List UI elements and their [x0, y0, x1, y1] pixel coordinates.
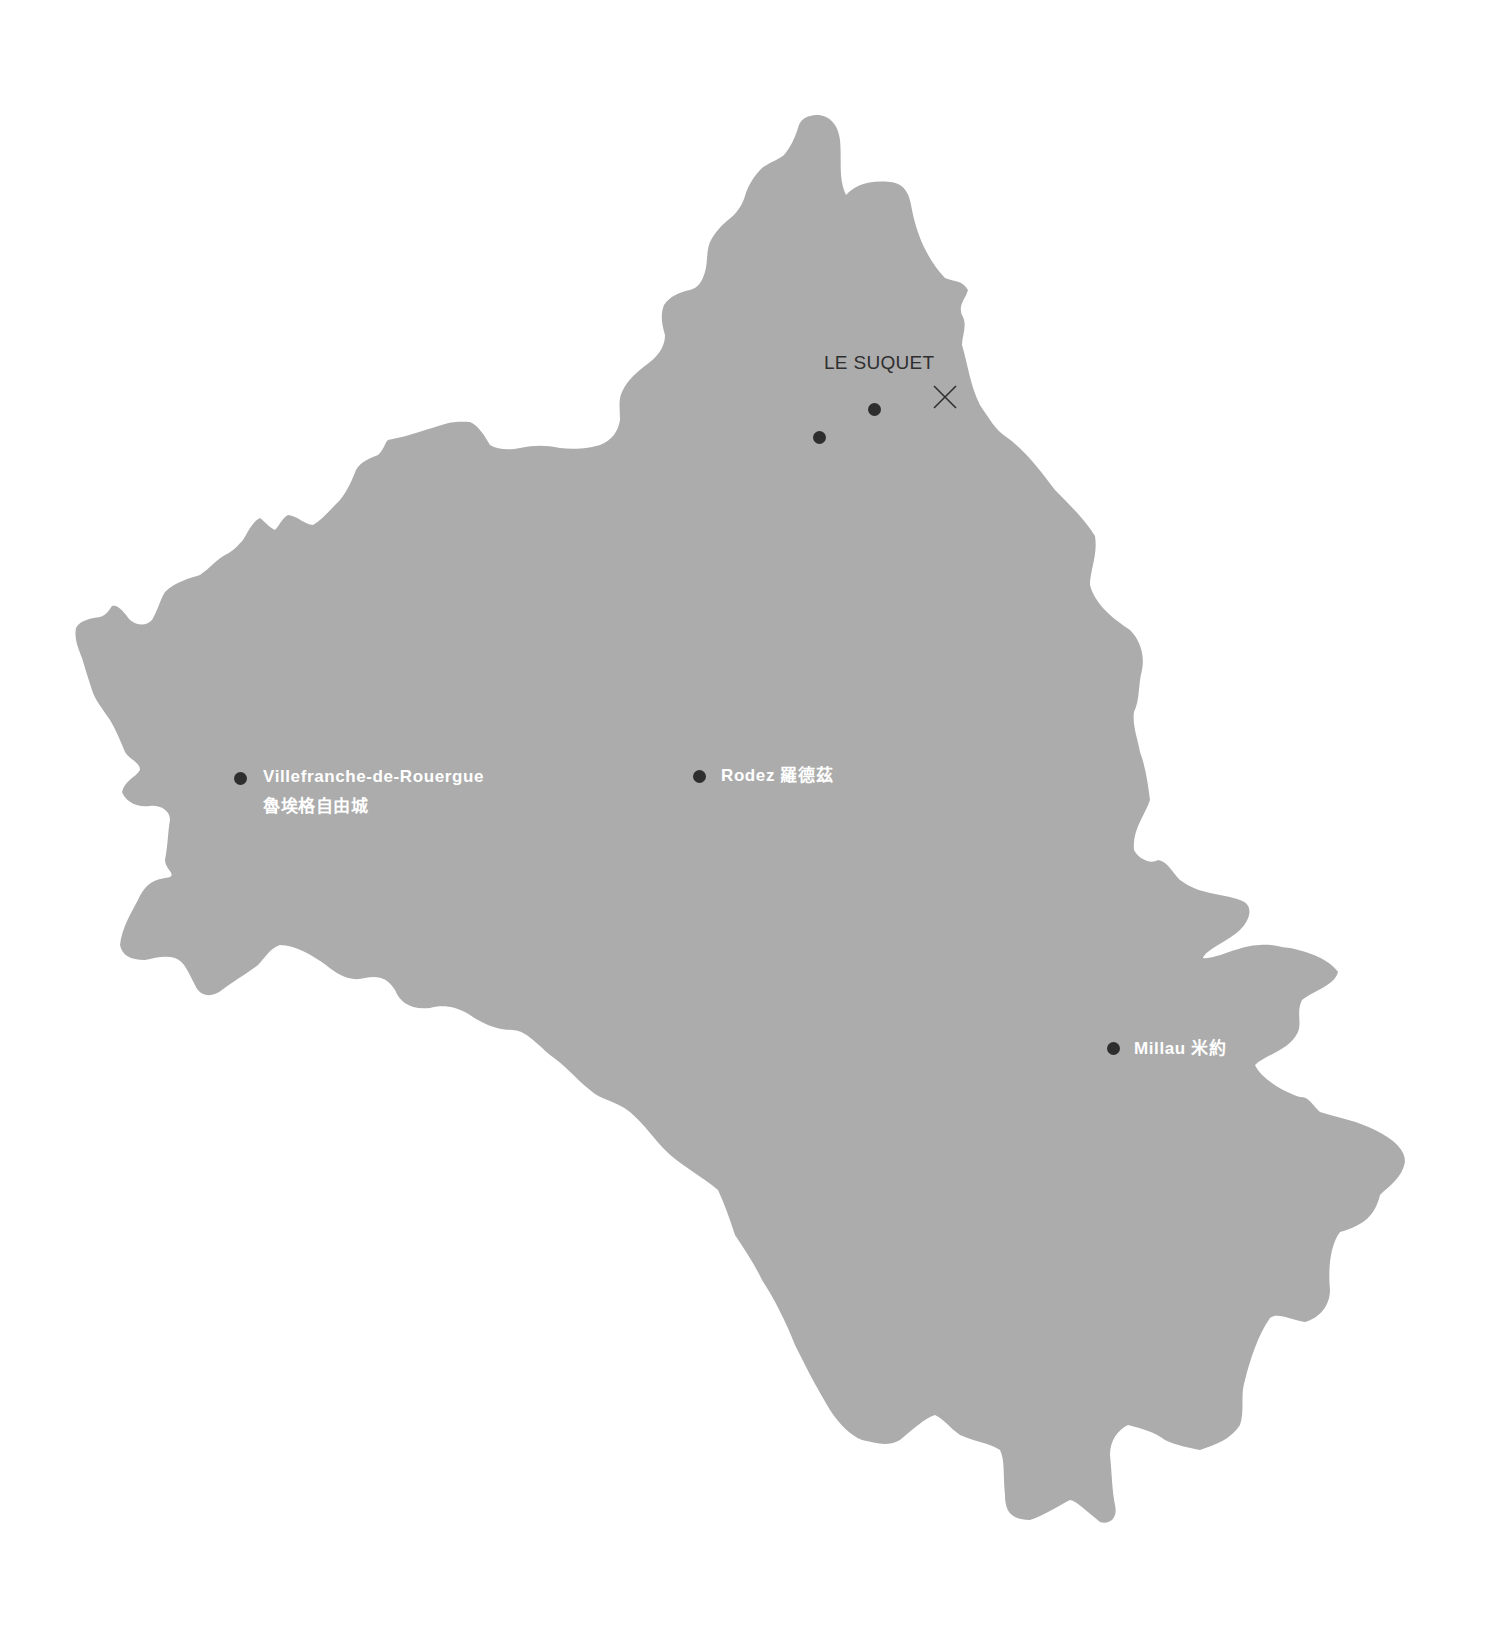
- city-label: Millau 米約: [1134, 1034, 1226, 1064]
- city-name-chinese: 魯埃格自由城: [263, 792, 484, 822]
- aveyron-outline: [0, 0, 1496, 1640]
- x-mark-icon: [932, 384, 958, 410]
- city-name: Rodez 羅德茲: [721, 761, 833, 791]
- city-name: Millau 米約: [1134, 1034, 1226, 1064]
- region-map: LE SUQUET Laguiole 拉奇歐樂 Lagardelle 拉加代勒 …: [0, 0, 1496, 1640]
- city-dot-icon: [813, 431, 826, 444]
- city-dot-icon: [1107, 1042, 1120, 1055]
- city-dot-icon: [868, 403, 881, 416]
- city-dot-icon: [693, 770, 706, 783]
- city-label: Villefranche-de-Rouergue 魯埃格自由城: [263, 762, 484, 822]
- city-dot-icon: [234, 772, 247, 785]
- city-label: Rodez 羅德茲: [721, 761, 833, 791]
- city-name: Villefranche-de-Rouergue: [263, 762, 484, 792]
- landmark-label: LE SUQUET: [824, 352, 934, 374]
